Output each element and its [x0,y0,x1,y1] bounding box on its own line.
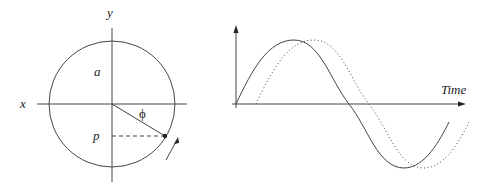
x-axis-label: x [19,96,26,111]
time-axis-arrowhead-icon [458,102,466,107]
time-axis-label: Time [441,82,467,97]
projection-label: p [92,128,100,143]
wave-diagram: Time [232,25,469,168]
amplitude-label: a [94,64,101,79]
circle-diagram: y x a p ϕ [19,5,187,182]
phase-label: ϕ [139,106,146,121]
rotating-point [163,134,167,138]
amplitude-axis-arrowhead-icon [234,25,239,33]
rotation-arrowhead-icon [174,137,179,144]
y-axis-label: y [105,5,113,20]
phasor-diagram: y x a p ϕ Time [0,0,489,187]
